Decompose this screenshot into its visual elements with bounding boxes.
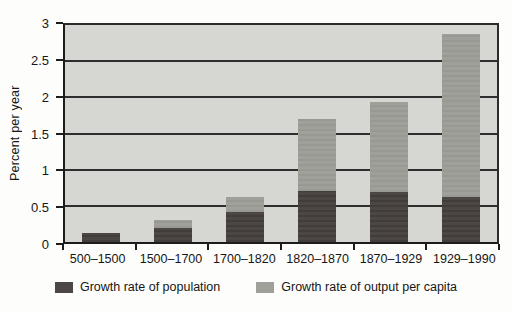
x-tick-mark: [280, 244, 282, 250]
y-tick-mark: [56, 96, 63, 98]
bar-segment-output-per-capita: [442, 34, 480, 197]
x-tick-label: 1700–1820: [208, 252, 281, 270]
x-tick-label: 500–1500: [61, 252, 134, 270]
x-tick-label: 1929–1990: [428, 252, 501, 270]
x-tick-mark: [62, 244, 64, 250]
gridline: [65, 205, 497, 207]
bar-500-1500: [82, 25, 120, 242]
bar-segment-population: [442, 197, 480, 242]
bar-segment-output-per-capita: [226, 197, 264, 211]
y-tick-label: 0.5: [31, 201, 49, 214]
x-tick-mark: [135, 244, 137, 250]
y-tick-label: 2.5: [31, 53, 49, 66]
legend-item-population: Growth rate of population: [55, 280, 220, 294]
bar-1870-1929: [370, 25, 408, 242]
y-tick-label: 3: [42, 17, 49, 30]
bar-1820-1870: [298, 25, 336, 242]
bar-1929-1990: [442, 25, 480, 242]
y-tick-mark: [56, 169, 63, 171]
legend-item-output-per-capita: Growth rate of output per capita: [256, 280, 457, 294]
legend-label-output-per-capita: Growth rate of output per capita: [281, 280, 457, 294]
bar-segment-population: [154, 228, 192, 242]
y-tick-mark: [56, 59, 63, 61]
bar-1700-1820: [226, 25, 264, 242]
plot-area: [63, 23, 499, 244]
legend-swatch-population: [55, 282, 73, 293]
y-tick-mark: [56, 133, 63, 135]
x-tick-label: 1500–1700: [134, 252, 207, 270]
x-tick-label: 1820–1870: [281, 252, 354, 270]
gridline: [65, 133, 497, 135]
x-tick-mark: [207, 244, 209, 250]
x-tick-mark: [353, 244, 355, 250]
bar-segment-output-per-capita: [298, 119, 336, 191]
y-tick-mark: [56, 206, 63, 208]
y-tick-label: 1: [42, 164, 49, 177]
bar-chart-figure: Percent per year 00.511.522.53 500–15001…: [0, 0, 512, 313]
bar-segment-population: [298, 191, 336, 242]
legend-label-population: Growth rate of population: [80, 280, 220, 294]
x-tick-mark: [425, 244, 427, 250]
bar-1500-1700: [154, 25, 192, 242]
y-axis: 00.511.522.53: [0, 23, 63, 244]
bar-segment-population: [226, 212, 264, 242]
x-tick-mark: [498, 244, 500, 250]
x-axis-ticks: [63, 244, 499, 251]
legend: Growth rate of population Growth rate of…: [0, 280, 512, 294]
y-tick-mark: [56, 22, 63, 24]
y-tick-label: 0: [42, 238, 49, 251]
gridline: [65, 60, 497, 62]
bar-segment-population: [370, 192, 408, 242]
bar-segment-output-per-capita: [370, 102, 408, 192]
gridline: [65, 169, 497, 171]
y-tick-label: 1.5: [31, 127, 49, 140]
bar-segment-output-per-capita: [154, 220, 192, 228]
y-tick-label: 2: [42, 90, 49, 103]
gridline: [65, 96, 497, 98]
x-tick-label: 1870–1929: [354, 252, 427, 270]
legend-swatch-output-per-capita: [256, 282, 274, 293]
x-axis-labels: 500–15001500–17001700–18201820–18701870–…: [61, 252, 501, 270]
bar-segment-population: [82, 233, 120, 242]
